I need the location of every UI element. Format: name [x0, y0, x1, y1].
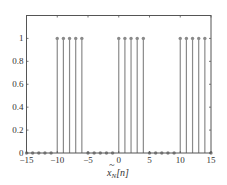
stem-marker	[117, 37, 120, 40]
y-tick-label: 0.6	[12, 79, 24, 89]
stem-marker	[197, 37, 200, 40]
stem-marker	[68, 37, 71, 40]
stem	[62, 37, 65, 153]
stem	[123, 37, 126, 153]
y-tick-label: 1	[19, 33, 24, 43]
stem	[74, 37, 77, 153]
stem	[191, 37, 194, 153]
y-tick-label: 0	[19, 148, 24, 158]
stem	[80, 37, 83, 153]
stem-marker	[62, 37, 65, 40]
x-tick-label: 10	[176, 155, 186, 165]
stem-marker	[129, 37, 132, 40]
stem-marker	[74, 37, 77, 40]
stem	[203, 37, 206, 153]
stem-series	[25, 37, 213, 155]
x-tick-labels: −15−10−5051015	[19, 155, 216, 165]
stem	[197, 37, 200, 153]
stem	[142, 37, 145, 153]
stem-marker	[56, 37, 59, 40]
y-tick-labels: 00.20.40.60.81	[12, 33, 24, 158]
x-tick-label: 5	[147, 155, 152, 165]
x-tick-label: 0	[117, 155, 122, 165]
x-tick-label: 15	[207, 155, 217, 165]
stem	[179, 37, 182, 153]
stem-marker	[191, 37, 194, 40]
y-tick-label: 0.8	[12, 56, 24, 66]
stem	[185, 37, 188, 153]
stem-marker	[179, 37, 182, 40]
stem	[129, 37, 132, 153]
stem-marker	[185, 37, 188, 40]
stem-marker	[142, 37, 145, 40]
stem-marker	[123, 37, 126, 40]
y-tick-label: 0.4	[12, 102, 24, 112]
stem	[117, 37, 120, 153]
stem-marker	[136, 37, 139, 40]
x-tick-label: −10	[50, 155, 65, 165]
x-axis-label-tilde: ~	[109, 159, 115, 170]
stem-marker	[203, 37, 206, 40]
stem	[68, 37, 71, 153]
stem-chart: −15−10−5051015 00.20.40.60.81 xN[n] ~	[0, 0, 227, 185]
x-tick-label: −5	[83, 155, 93, 165]
y-tick-label: 0.2	[12, 125, 23, 135]
stem	[136, 37, 139, 153]
stem	[56, 37, 59, 153]
stem-marker	[80, 37, 83, 40]
